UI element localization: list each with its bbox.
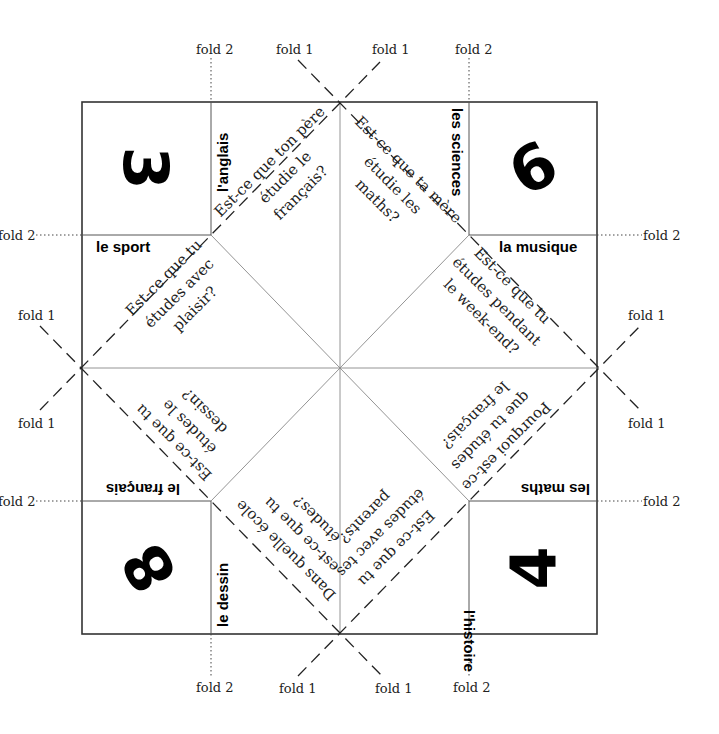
question-q7: Pourquoi est-ce que tu études le françai… [427, 367, 554, 494]
fold1-label-bottom-left: fold 1 [279, 681, 317, 696]
question-q5: Est-ce que tu études le dessin? [132, 369, 247, 484]
fold2-label-bottom-left: fold 2 [196, 680, 234, 695]
fortune-teller-diagram: fold 2 fold 1 fold 1 fold 2 fold 2 fold … [0, 0, 719, 734]
fold2-label-right-bottom: fold 2 [643, 494, 681, 509]
corner-number-top-left: 3 [109, 146, 182, 189]
question-q1: Est-ce que ton père étudie le français? [211, 103, 360, 252]
subject-le-sport: le sport [96, 238, 150, 255]
fold1-label-top-left: fold 1 [276, 42, 314, 57]
question-q4: Est-ce que tu études pendant le week-end… [433, 238, 560, 365]
fold2-label-top-right: fold 2 [455, 42, 493, 57]
corner-number-top-right: 6 [496, 126, 570, 211]
fold1-label-left-top: fold 1 [18, 308, 56, 323]
subject-l-anglais: l'anglais [214, 133, 231, 192]
fold2-label-bottom-right: fold 2 [453, 680, 491, 695]
subject-les-sciences: les sciences [449, 108, 466, 196]
subject-le-dessin: le dessin [214, 563, 231, 627]
subject-l-histoire: l'histoire [461, 610, 478, 672]
fold1-label-bottom-right: fold 1 [375, 681, 413, 696]
fold1-label-right-bottom: fold 1 [628, 416, 666, 431]
subject-la-musique: la musique [499, 238, 577, 255]
fold2-label-top-left: fold 2 [196, 42, 234, 57]
fold1-label-right-top: fold 1 [628, 308, 666, 323]
question-q3: Est-ce que ta mère étudie les maths? [320, 113, 465, 258]
subject-le-francais: le français [106, 481, 180, 498]
fold2-label-right-top: fold 2 [643, 228, 681, 243]
corner-number-bottom-left: 8 [107, 531, 192, 605]
fold2-label-left-bottom: fold 2 [0, 494, 36, 509]
fold1-label-top-right: fold 1 [372, 42, 410, 57]
fold1-label-left-bottom: fold 1 [18, 416, 56, 431]
corner-number-bottom-right: 4 [497, 546, 570, 589]
subject-les-maths: les maths [521, 481, 590, 498]
fold2-label-left-top: fold 2 [0, 228, 36, 243]
fold1-line-upper-left [40, 62, 380, 410]
